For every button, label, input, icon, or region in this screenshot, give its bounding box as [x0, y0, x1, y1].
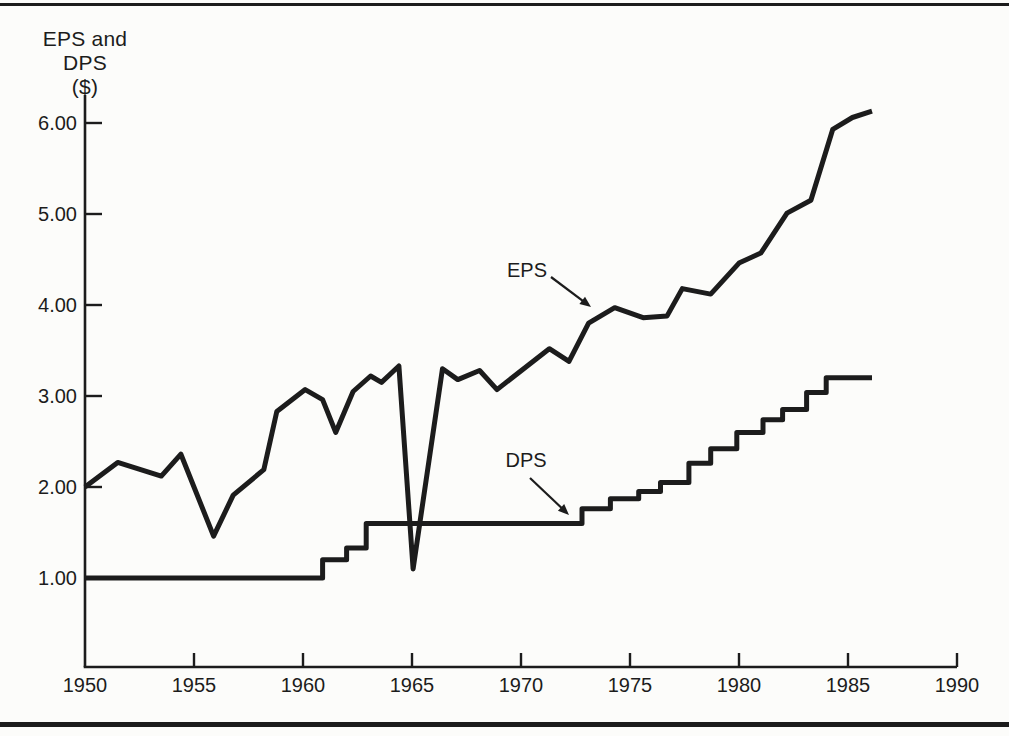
y-tick-label: 6.00: [38, 112, 77, 134]
y-tick-label: 4.00: [38, 294, 77, 316]
x-tick-label: 1990: [935, 674, 980, 696]
y-tick-label: 5.00: [38, 203, 77, 225]
x-tick-label: 1970: [499, 674, 544, 696]
dps-series-label: DPS: [502, 449, 550, 472]
x-tick-label: 1980: [717, 674, 762, 696]
eps-series-label: EPS: [503, 259, 551, 282]
x-tick-label: 1950: [63, 674, 108, 696]
eps-dps-chart-figure: EPS and DPS ($) 195019551960196519701975…: [0, 0, 1009, 736]
x-tick-label: 1985: [826, 674, 871, 696]
dps-arrow-shaft: [530, 478, 562, 509]
y-tick-label: 2.00: [38, 476, 77, 498]
eps-arrow-shaft: [551, 277, 584, 302]
chart-canvas: 1950195519601965197019751980198519901.00…: [0, 0, 1009, 736]
x-tick-label: 1965: [390, 674, 435, 696]
bottom-rule: [0, 722, 1009, 727]
eps-line: [85, 111, 872, 569]
x-tick-label: 1955: [172, 674, 217, 696]
y-tick-label: 1.00: [38, 567, 77, 589]
dps-line: [85, 378, 872, 578]
x-tick-label: 1960: [281, 674, 326, 696]
y-tick-label: 3.00: [38, 385, 77, 407]
x-tick-label: 1975: [608, 674, 653, 696]
